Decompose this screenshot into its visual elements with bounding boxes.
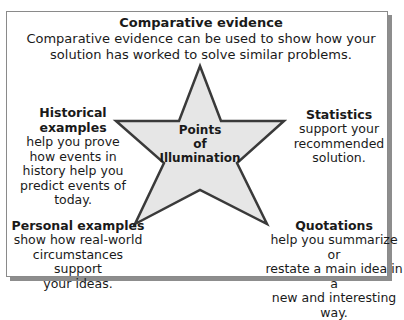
personal-line-3: your ideas. [10, 277, 146, 292]
historical-line-1: help you prove [10, 135, 136, 150]
historical-line-5: today. [10, 193, 136, 208]
historical-examples-title: Historical examples [10, 105, 136, 135]
personal-line-2: circumstances support [10, 248, 146, 277]
quotations-line-2: restate a main idea in a [264, 262, 404, 291]
comparative-evidence-title: Comparative evidence [20, 14, 382, 31]
personal-examples-title: Personal examples [10, 218, 146, 233]
comparative-evidence-line-1: Comparative evidence can be used to show… [20, 31, 382, 47]
statistics-line-3: solution. [292, 151, 386, 166]
statistics-block: Statistics support your recommended solu… [292, 107, 386, 166]
historical-examples-block: Historical examples help you prove how e… [10, 105, 136, 208]
quotations-line-3: new and interesting way. [264, 291, 404, 320]
center-line-3: Illumination [150, 151, 250, 165]
historical-line-2: how events in [10, 150, 136, 165]
center-line-1: Points [150, 123, 250, 137]
personal-line-1: show how real-world [10, 233, 146, 248]
statistics-line-1: support your [292, 122, 386, 137]
comparative-evidence-line-2: solution has worked to solve similar pro… [20, 47, 382, 63]
quotations-line-1: help you summarize or [264, 233, 404, 262]
center-line-2: of [150, 137, 250, 151]
historical-line-4: predict events of [10, 179, 136, 194]
quotations-block: Quotations help you summarize or restate… [264, 218, 404, 320]
historical-line-3: history help you [10, 164, 136, 179]
personal-examples-block: Personal examples show how real-world ci… [10, 218, 146, 291]
star-center-label: Points of Illumination [150, 123, 250, 165]
statistics-title: Statistics [292, 107, 386, 122]
statistics-line-2: recommended [292, 137, 386, 152]
quotations-title: Quotations [264, 218, 404, 233]
comparative-evidence-block: Comparative evidence Comparative evidenc… [20, 14, 382, 63]
